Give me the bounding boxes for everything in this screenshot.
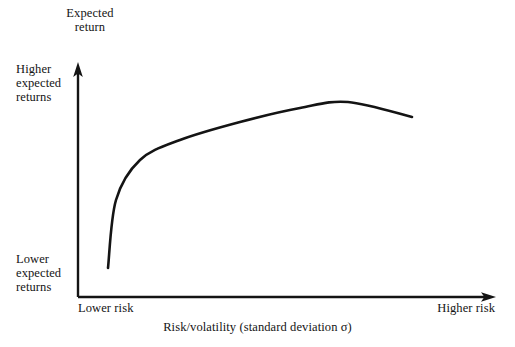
- x-axis-label-higher-risk: Higher risk: [352, 301, 495, 315]
- y-axis-label-higher-returns: Higher expected returns: [16, 62, 76, 105]
- x-axis-title: Risk/volatility (standard deviation σ): [95, 320, 420, 334]
- chart-canvas: [0, 0, 515, 347]
- axes-group: [73, 62, 496, 302]
- risk-return-curve: [108, 102, 412, 268]
- y-axis-title: Expected return: [42, 6, 138, 34]
- x-axis-label-lower-risk: Lower risk: [78, 301, 134, 315]
- risk-return-chart-figure: Expected return Higher expected returns …: [0, 0, 515, 347]
- efficient-frontier-curve-group: [108, 102, 412, 268]
- y-axis-label-lower-returns: Lower expected returns: [16, 252, 76, 295]
